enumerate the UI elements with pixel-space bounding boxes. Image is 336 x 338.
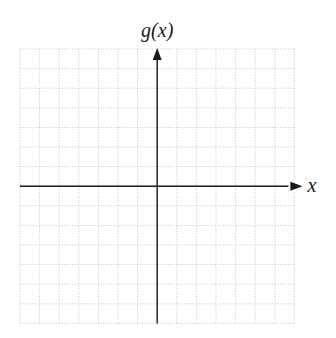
y-axis-label: g(x) [141,19,174,42]
coordinate-plane: g(x) x [0,0,336,338]
x-axis-arrowhead-icon [290,182,302,191]
x-axis-label: x [306,174,316,196]
axes [20,48,302,323]
y-axis-arrowhead-icon [153,48,162,60]
